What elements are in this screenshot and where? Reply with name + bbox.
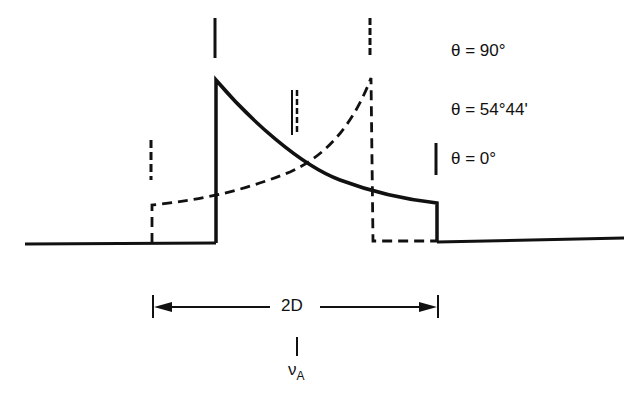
baseline-left <box>25 243 216 244</box>
center-frequency-label: νA <box>288 360 305 380</box>
arrowhead-left <box>154 302 172 312</box>
baseline-right <box>437 238 624 242</box>
legend-theta-magic: θ = 54°44' <box>451 100 528 120</box>
dashed-lineshape <box>152 78 437 243</box>
span-label: 2D <box>281 296 303 316</box>
nu-symbol: ν <box>288 360 297 379</box>
powder-pattern-diagram <box>0 0 639 400</box>
nu-subscript: A <box>297 369 305 383</box>
legend-theta-90: θ = 90° <box>451 41 506 61</box>
solid-lineshape <box>216 80 437 243</box>
legend-theta-0: θ = 0° <box>451 149 496 169</box>
arrowhead-right <box>419 302 437 312</box>
